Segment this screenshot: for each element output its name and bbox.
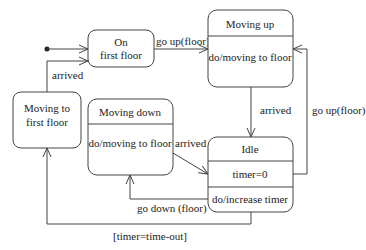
state-moving-down[interactable]: Moving down do/moving to floor: [88, 99, 173, 175]
transition-label-go-up: go up(floor): [156, 35, 210, 48]
transition-arrived-down: [173, 153, 208, 174]
state-entry: timer=0: [233, 168, 268, 180]
state-activity: do/increase timer: [212, 193, 288, 205]
transition-go-down: [130, 175, 208, 199]
state-diagram: On first floor go up(floor) Moving up do…: [0, 0, 366, 250]
state-name-line2: first floor: [100, 49, 142, 61]
state-idle[interactable]: Idle timer=0 do/increase timer: [208, 137, 293, 212]
state-on-first-floor[interactable]: On first floor: [88, 30, 154, 67]
state-name-line2: first floor: [26, 116, 68, 128]
state-moving-up[interactable]: Moving up do/moving to floor: [208, 10, 293, 87]
state-name: Idle: [241, 143, 258, 155]
state-moving-to-first-floor[interactable]: Moving to first floor: [13, 92, 81, 148]
transition-label-go-up-idle: go up(floor): [312, 104, 366, 117]
state-activity: do/moving to floor: [88, 137, 171, 149]
transition-label-arrived-up: arrived: [260, 104, 292, 116]
transition-label-timeout: [timer=time-out]: [113, 230, 187, 242]
state-activity: do/moving to floor: [208, 51, 291, 63]
state-name: Moving down: [99, 106, 162, 118]
transition-label-arrived-first-floor: arrived: [52, 69, 84, 81]
transition-label-go-down: go down (floor): [137, 202, 207, 215]
state-name-line1: On: [114, 36, 128, 48]
transition-label-arrived-down: arrived: [175, 137, 207, 149]
transition-go-up-from-idle: [293, 49, 307, 174]
state-name-line1: Moving to: [24, 102, 71, 114]
state-name: Moving up: [226, 18, 275, 30]
